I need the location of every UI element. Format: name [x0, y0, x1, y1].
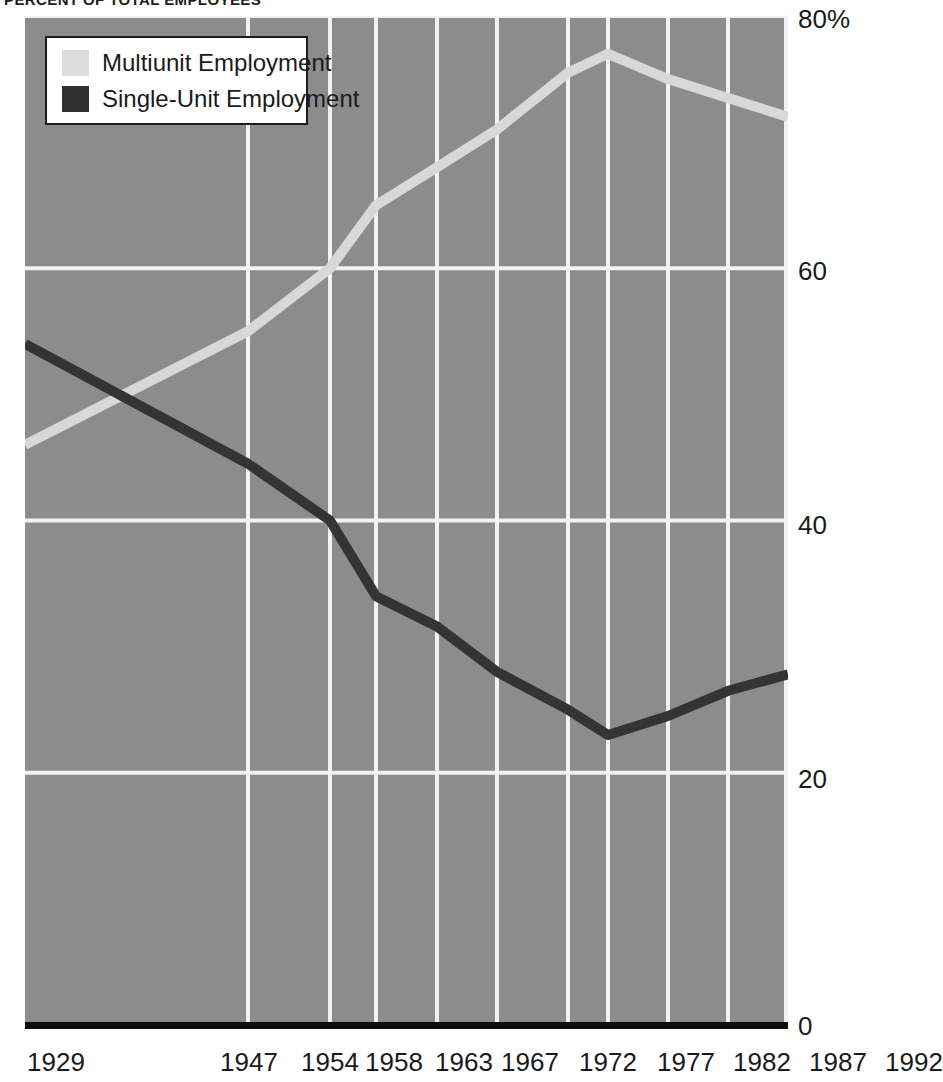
y-tick-label-60: 60 — [798, 256, 827, 287]
x-tick-label-1967: 1967 — [501, 1047, 559, 1078]
multiunit-swatch — [62, 50, 89, 76]
chart-legend: Multiunit Employment Single-Unit Employm… — [45, 36, 308, 125]
y-tick-label-20: 20 — [798, 764, 827, 795]
x-tick-label-1977: 1977 — [657, 1047, 715, 1078]
x-tick-label-1992: 1992 — [885, 1047, 943, 1078]
legend-label-single-unit: Single-Unit Employment — [102, 87, 359, 111]
single-unit-swatch — [62, 86, 89, 112]
x-tick-label-1947: 1947 — [220, 1047, 278, 1078]
page-title: PERCENT OF TOTAL EMPLOYEES — [4, 0, 261, 8]
legend-item-multiunit[interactable]: Multiunit Employment — [47, 45, 306, 81]
legend-item-single-unit[interactable]: Single-Unit Employment — [47, 81, 306, 117]
x-axis-baseline — [25, 1022, 788, 1029]
y-tick-label-0: 0 — [798, 1011, 812, 1042]
legend-label-multiunit: Multiunit Employment — [102, 51, 331, 75]
x-tick-label-1958: 1958 — [365, 1047, 423, 1078]
chart-plot-area — [25, 16, 788, 1025]
horizontal-gridlines — [25, 16, 788, 773]
x-tick-label-1982: 1982 — [733, 1047, 791, 1078]
x-tick-label-1972: 1972 — [579, 1047, 637, 1078]
series-line-single-unit-employment — [25, 344, 788, 735]
x-tick-label-1987: 1987 — [809, 1047, 867, 1078]
series-lines — [25, 54, 788, 735]
chart-svg — [25, 16, 788, 1025]
x-tick-label-1929: 1929 — [27, 1047, 85, 1078]
y-tick-label-40: 40 — [798, 510, 827, 541]
x-tick-label-1954: 1954 — [301, 1047, 359, 1078]
x-tick-label-1963: 1963 — [435, 1047, 493, 1078]
y-tick-label-80: 80% — [798, 4, 850, 35]
